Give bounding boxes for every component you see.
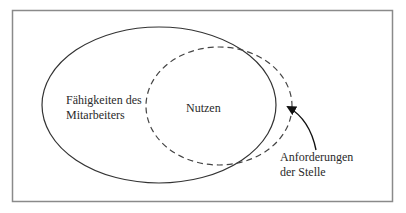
diagram-canvas: Fähigkeiten des Mitarbeiters Nutzen Anfo… — [0, 0, 406, 213]
arrow-icon — [288, 107, 316, 150]
anforderungen-label-line2: der Stelle — [280, 165, 326, 179]
nutzen-label: Nutzen — [186, 101, 221, 115]
faehigkeiten-label-line2: Mitarbeiters — [66, 108, 125, 122]
anforderungen-label-line1: Anforderungen — [280, 150, 353, 164]
faehigkeiten-label-line1: Fähigkeiten des — [66, 93, 142, 107]
